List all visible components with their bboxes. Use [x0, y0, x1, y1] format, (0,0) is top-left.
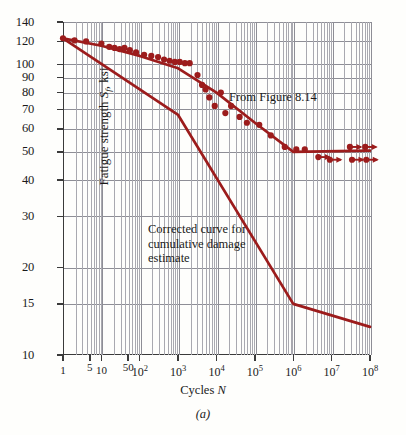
gridline-vertical-minor	[171, 22, 172, 355]
annotation-lower-curve-line2: cumulative damage	[148, 237, 246, 252]
y-axis-tick-label: 70	[0, 103, 34, 116]
x-axis-label-prefix: Cycles	[180, 383, 217, 397]
gridline-vertical-minor	[356, 22, 357, 355]
y-axis-tick-label: 10	[0, 349, 34, 362]
gridline-vertical-minor	[132, 22, 133, 355]
gridline-vertical-minor	[327, 22, 328, 355]
gridline-vertical-minor	[125, 22, 126, 355]
gridline-vertical-minor	[202, 22, 203, 355]
gridline-vertical-minor	[244, 22, 245, 355]
gridline-vertical-minor	[236, 22, 237, 355]
x-axis-tick-mark	[177, 355, 178, 361]
gridline-vertical-minor	[129, 22, 130, 355]
gridline-vertical-minor	[214, 22, 215, 355]
y-axis-tick-mark	[57, 151, 63, 152]
x-axis-tick-label: 103	[158, 362, 198, 378]
x-axis-tick-label: 104	[197, 362, 237, 378]
y-axis-tick-label: 40	[0, 174, 34, 187]
gridline-vertical-minor	[159, 22, 160, 355]
y-axis-tick-label: 50	[0, 145, 34, 158]
y-axis-tick-mark	[57, 128, 63, 129]
y-axis-tick-mark	[57, 64, 63, 65]
gridline-vertical-minor	[344, 22, 345, 355]
y-axis-tick-label: 90	[0, 71, 34, 84]
gridline-vertical-minor	[351, 22, 352, 355]
gridline-vertical-minor	[191, 22, 192, 355]
y-axis-tick-label: 60	[0, 122, 34, 135]
gridline-vertical-major	[333, 22, 334, 355]
gridline-vertical-minor	[329, 22, 330, 355]
x-axis-tick-mark	[62, 355, 63, 361]
y-axis-tick-mark	[57, 179, 63, 180]
x-axis-tick-mark	[139, 355, 140, 361]
gridline-vertical-minor	[76, 22, 77, 355]
gridline-vertical-minor	[87, 22, 88, 355]
gridline-vertical-minor	[229, 22, 230, 355]
annotation-upper-curve: From Figure 8.14	[229, 90, 317, 105]
gridline-vertical-minor	[209, 22, 210, 355]
gridline-vertical-major	[294, 22, 295, 355]
gridline-vertical-minor	[175, 22, 176, 355]
gridline-vertical-minor	[91, 22, 92, 355]
gridline-vertical-minor	[313, 22, 314, 355]
y-axis-tick-label: 140	[0, 16, 34, 29]
x-axis-label: Cycles N	[0, 383, 406, 398]
x-axis-tick-mark	[369, 355, 370, 361]
y-axis-tick-mark	[57, 41, 63, 42]
gridline-vertical-minor	[206, 22, 207, 355]
x-axis-tick-label: 107	[312, 362, 352, 378]
x-axis-tick-mark	[101, 355, 102, 361]
y-axis-tick-mark	[57, 303, 63, 304]
x-axis-tick-mark	[331, 355, 332, 361]
y-axis-tick-label: 100	[0, 58, 34, 71]
gridline-vertical-minor	[324, 22, 325, 355]
y-axis-tick-mark	[57, 77, 63, 78]
y-axis-tick-mark	[57, 21, 63, 22]
gridline-vertical-major	[256, 22, 257, 355]
gridline-vertical-minor	[250, 22, 251, 355]
gridline-vertical-major	[141, 22, 142, 355]
gridline-vertical-minor	[247, 22, 248, 355]
gridline-vertical-minor	[197, 22, 198, 355]
y-axis-tick-label: 15	[0, 297, 34, 310]
x-axis-tick-label: 102	[120, 362, 160, 378]
y-axis-tick-label: 30	[0, 210, 34, 223]
gridline-vertical-minor	[283, 22, 284, 355]
figure-caption: (a)	[0, 407, 406, 422]
y-axis-label: Fatigue strength Sf, ksi	[96, 17, 113, 237]
x-axis-tick-mark	[216, 355, 217, 361]
gridline-vertical-minor	[274, 22, 275, 355]
gridline-vertical-minor	[367, 22, 368, 355]
gridline-vertical-minor	[317, 22, 318, 355]
gridline-vertical-minor	[82, 22, 83, 355]
gridline-vertical-major	[179, 22, 180, 355]
y-axis-label-suffix: , ksi	[96, 67, 111, 89]
y-axis-label-symbol: S	[96, 92, 111, 99]
gridline-vertical-minor	[288, 22, 289, 355]
gridline-vertical-major	[371, 22, 372, 355]
annotation-lower-curve-line3: estimate	[148, 251, 246, 266]
y-axis-tick-mark	[57, 109, 63, 110]
gridline-vertical-minor	[173, 22, 174, 355]
gridline-vertical-minor	[362, 22, 363, 355]
y-axis-tick-mark	[57, 267, 63, 268]
gridline-vertical-major	[218, 22, 219, 355]
gridline-vertical-minor	[168, 22, 169, 355]
y-axis-tick-label: 120	[0, 35, 34, 48]
gridline-vertical-minor	[306, 22, 307, 355]
gridline-vertical-minor	[321, 22, 322, 355]
x-axis-tick-label: 106	[273, 362, 313, 378]
gridline-vertical-minor	[114, 22, 115, 355]
x-axis-tick-label: 108	[350, 362, 390, 378]
gridline-vertical-minor	[241, 22, 242, 355]
gridline-vertical-minor	[164, 22, 165, 355]
gridline-vertical-minor	[359, 22, 360, 355]
annotation-lower-curve: Corrected curve for cumulative damage es…	[148, 222, 246, 266]
x-axis-label-symbol: N	[217, 383, 225, 397]
x-axis-tick-label: 105	[235, 362, 275, 378]
y-axis-label-subscript: f	[103, 89, 113, 92]
gridline-vertical-minor	[121, 22, 122, 355]
x-axis-tick-mark	[254, 355, 255, 361]
gridline-vertical-minor	[279, 22, 280, 355]
y-axis-label-prefix: Fatigue strength	[96, 98, 111, 185]
